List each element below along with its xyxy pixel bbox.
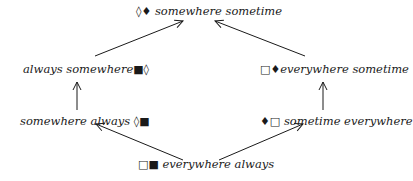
arrow-left-upper-to-top	[95, 21, 183, 56]
diamond-symbols: ◊♦	[136, 5, 151, 18]
node-label: everywhere always	[162, 157, 274, 171]
arrow-bottom-to-left-lower	[96, 124, 183, 160]
node-label: sometime everywhere	[284, 114, 413, 128]
node-top: ◊♦ somewhere sometime	[136, 4, 282, 19]
node-right-upper: □♦everywhere sometime	[260, 62, 409, 77]
arrow-right-upper-to-top	[215, 21, 305, 56]
box-diamond-symbols: ■◊	[133, 63, 149, 76]
node-label: everywhere sometime	[280, 62, 409, 76]
diamond-box-symbols: ◊■	[134, 115, 150, 128]
arrow-bottom-to-right-lower	[219, 124, 303, 160]
box-symbols: □■	[138, 158, 159, 171]
diamond-box-symbols: ♦□	[260, 115, 280, 128]
node-left-upper: always somewhere■◊	[23, 62, 149, 77]
node-bottom: □■ everywhere always	[138, 157, 274, 172]
node-left-lower: somewhere always ◊■	[20, 114, 150, 129]
box-diamond-symbols: □♦	[260, 63, 280, 76]
node-label: always somewhere	[23, 62, 133, 76]
node-label: somewhere sometime	[155, 4, 282, 18]
node-label: somewhere always	[20, 114, 130, 128]
node-right-lower: ♦□ sometime everywhere	[260, 114, 413, 129]
